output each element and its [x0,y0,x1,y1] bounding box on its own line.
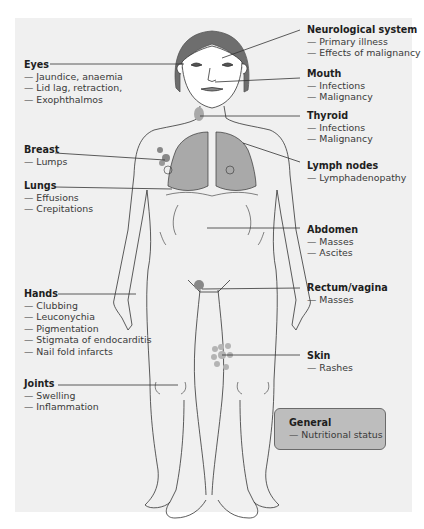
annotation-joints: Joints — Swelling — Inflammation [24,378,99,413]
annotation-hands: Hands — Clubbing — Leuconychia — Pigment… [24,288,152,358]
thyroid-shape [194,107,204,121]
face-shape [182,46,242,108]
annotation-thyroid: Thyroid — Infections — Malignancy [307,110,373,145]
annotation-lymph-nodes: Lymph nodes — Lymphadenopathy [307,160,406,183]
rectum-vagina-shape [194,280,204,290]
general-box: General — Nutritional status [274,408,386,450]
annotation-general: General — Nutritional status [289,417,383,440]
right-lung-shape [216,132,256,191]
annotation-skin: Skin — Rashes [307,350,353,373]
annotation-lungs: Lungs — Effusions — Crepitations [24,180,93,215]
annotation-breast: Breast — Lumps [24,144,67,167]
annotation-abdomen: Abdomen — Masses — Ascites [307,224,358,259]
annotation-rectum-vagina: Rectum/vagina — Masses [307,282,388,305]
annotation-neurological-system: Neurological system — Primary illness — … [307,24,421,59]
annotation-eyes: Eyes — Jaundice, anaemia — Lid lag, retr… [24,59,123,105]
annotation-mouth: Mouth — Infections — Malignancy [307,68,373,103]
left-lung-shape [168,132,208,191]
skin-rash-shape [211,343,233,370]
